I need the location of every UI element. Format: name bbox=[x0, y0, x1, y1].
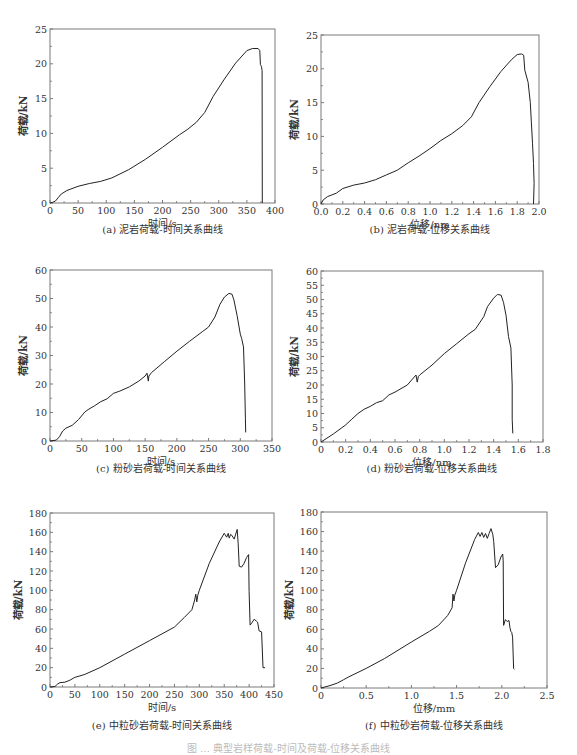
chart-e: 0501001502002503003504004500204060801001… bbox=[12, 508, 283, 714]
x-tick-label: 1.5 bbox=[449, 690, 464, 701]
figure-caption: 图 … 典型岩样荷载-时间及荷载-位移关系曲线 bbox=[0, 740, 577, 755]
x-tick-label: 0.8 bbox=[412, 444, 427, 455]
x-tick-label: 0 bbox=[47, 205, 53, 216]
x-tick-label: 350 bbox=[238, 205, 256, 216]
x-tick-label: 0 bbox=[47, 443, 53, 454]
y-tick-label: 5 bbox=[41, 163, 47, 174]
y-tick-label: 160 bbox=[29, 527, 47, 538]
x-tick-label: 1.4 bbox=[486, 444, 501, 455]
x-tick-label: 1.6 bbox=[511, 444, 526, 455]
y-tick-label: 15 bbox=[35, 93, 47, 104]
y-tick-label: 0 bbox=[312, 683, 318, 694]
y-tick-label: 50 bbox=[306, 294, 318, 305]
x-tick-label: 250 bbox=[200, 443, 218, 454]
y-tick-label: 20 bbox=[306, 663, 318, 674]
x-tick-label: 400 bbox=[240, 689, 258, 700]
y-tick-label: 25 bbox=[306, 365, 318, 376]
x-tick-label: 100 bbox=[97, 205, 115, 216]
panel-caption-a: (a) 泥岩荷载-时间关系曲线 bbox=[50, 221, 275, 236]
plot-frame bbox=[50, 29, 275, 203]
x-tick-label: 250 bbox=[182, 205, 200, 216]
chart-b: 0.00.20.40.60.81.01.21.41.61.82.00510152… bbox=[288, 30, 547, 231]
y-tick-label: 40 bbox=[35, 643, 47, 654]
y-axis-label: 荷载/kN bbox=[283, 579, 295, 621]
plot-frame bbox=[50, 270, 272, 441]
x-tick-label: 300 bbox=[210, 205, 228, 216]
y-tick-label: 140 bbox=[29, 546, 47, 557]
y-tick-label: 20 bbox=[306, 63, 318, 74]
y-tick-label: 80 bbox=[35, 604, 47, 615]
x-tick-label: 50 bbox=[69, 689, 81, 700]
x-tick-label: 1.4 bbox=[466, 206, 481, 217]
x-tick-label: 0.4 bbox=[357, 206, 372, 217]
y-tick-label: 55 bbox=[306, 280, 318, 291]
y-tick-label: 140 bbox=[300, 546, 318, 557]
x-tick-label: 200 bbox=[168, 443, 186, 454]
x-tick-label: 0.5 bbox=[359, 690, 374, 701]
x-tick-label: 50 bbox=[76, 443, 88, 454]
y-tick-label: 80 bbox=[306, 604, 318, 615]
y-tick-label: 20 bbox=[35, 58, 47, 69]
y-tick-label: 60 bbox=[306, 266, 318, 277]
y-axis-label: 荷载/kN bbox=[17, 95, 29, 137]
x-tick-label: 100 bbox=[104, 443, 122, 454]
x-tick-label: 1.8 bbox=[510, 206, 525, 217]
data-line bbox=[50, 49, 262, 204]
chart-a: 0501001502002503003504000510152025时间/s荷载… bbox=[17, 24, 284, 230]
x-tick-label: 1.0 bbox=[404, 690, 419, 701]
x-tick-label: 2.0 bbox=[531, 206, 546, 217]
y-tick-label: 40 bbox=[306, 643, 318, 654]
chart-d: 00.20.40.60.81.01.21.41.61.8051015202530… bbox=[288, 266, 551, 469]
y-tick-label: 0 bbox=[312, 199, 318, 210]
y-tick-label: 100 bbox=[29, 585, 47, 596]
x-tick-label: 0.6 bbox=[379, 206, 394, 217]
panel-caption-b: (b) 泥岩荷载-位移关系曲线 bbox=[321, 221, 539, 236]
y-tick-label: 60 bbox=[35, 624, 47, 635]
data-line bbox=[321, 529, 515, 688]
y-tick-label: 10 bbox=[306, 408, 318, 419]
x-tick-label: 1.2 bbox=[461, 444, 476, 455]
x-tick-label: 0.2 bbox=[338, 444, 353, 455]
x-tick-label: 1.0 bbox=[437, 444, 452, 455]
y-tick-label: 45 bbox=[306, 308, 318, 319]
y-tick-label: 40 bbox=[35, 322, 47, 333]
x-tick-label: 350 bbox=[263, 443, 281, 454]
x-tick-label: 100 bbox=[91, 689, 109, 700]
y-tick-label: 20 bbox=[35, 662, 47, 673]
x-tick-label: 400 bbox=[266, 205, 284, 216]
chart-f: 00.51.01.52.02.5020406080100120140160180… bbox=[283, 507, 555, 715]
y-tick-label: 5 bbox=[312, 422, 318, 433]
x-axis-label: 时间/s bbox=[148, 701, 177, 713]
x-tick-label: 150 bbox=[136, 443, 154, 454]
y-tick-label: 60 bbox=[306, 624, 318, 635]
x-tick-label: 1.0 bbox=[422, 206, 437, 217]
y-tick-label: 10 bbox=[306, 131, 318, 142]
x-tick-label: 0.4 bbox=[363, 444, 378, 455]
x-tick-label: 2.5 bbox=[539, 690, 554, 701]
y-tick-label: 25 bbox=[306, 30, 318, 41]
y-tick-label: 25 bbox=[35, 24, 47, 35]
y-tick-label: 30 bbox=[306, 351, 318, 362]
data-line bbox=[50, 293, 246, 441]
y-axis-label: 荷载/kN bbox=[288, 99, 300, 141]
y-tick-label: 0 bbox=[41, 198, 47, 209]
x-tick-label: 0 bbox=[318, 444, 324, 455]
x-tick-label: 450 bbox=[265, 689, 283, 700]
y-tick-label: 20 bbox=[35, 379, 47, 390]
x-tick-label: 0.6 bbox=[387, 444, 402, 455]
x-tick-label: 250 bbox=[165, 689, 183, 700]
y-axis-label: 荷载/kN bbox=[17, 335, 29, 377]
x-tick-label: 200 bbox=[140, 689, 158, 700]
x-tick-label: 0 bbox=[318, 690, 324, 701]
data-line bbox=[321, 294, 513, 442]
x-tick-label: 150 bbox=[125, 205, 143, 216]
plot-frame bbox=[50, 513, 274, 687]
y-tick-label: 120 bbox=[29, 566, 47, 577]
x-tick-label: 1.2 bbox=[444, 206, 459, 217]
y-tick-label: 30 bbox=[35, 350, 47, 361]
x-tick-label: 150 bbox=[116, 689, 134, 700]
data-line bbox=[50, 529, 265, 687]
y-tick-label: 0 bbox=[41, 436, 47, 447]
panel-caption-f: (f) 中粒砂岩荷载-位移关系曲线 bbox=[321, 717, 547, 732]
